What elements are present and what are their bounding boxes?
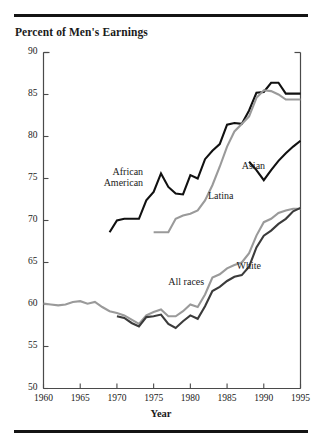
y-tick-label: 65 [16,256,38,266]
x-tick-label: 1965 [63,393,97,403]
series-label-all-races: All races [168,276,204,287]
bottom-rule [14,430,308,433]
series-label-line-1: African [91,166,143,177]
x-tick-label: 1975 [137,393,171,403]
x-tick-label: 1970 [100,393,134,403]
axis-ticks [44,53,301,389]
x-tick-label: 1960 [27,393,61,403]
y-tick-label: 55 [16,340,38,350]
y-tick-label: 85 [16,88,38,98]
series-label-white: White [237,260,261,271]
series-line-white [117,208,301,328]
x-tick-label: 1990 [247,393,281,403]
x-axis-title: Year [0,408,322,419]
series-label-latina: Latina [208,190,234,201]
x-tick-label: 1980 [173,393,207,403]
series-line-african-american [110,83,301,233]
y-tick-label: 70 [16,214,38,224]
y-tick-label: 80 [16,130,38,140]
data-series-layer [44,83,301,328]
figure-container: Percent of Men's Earnings 50556065707580… [0,0,322,447]
y-tick-label: 60 [16,298,38,308]
x-tick-label: 1995 [284,393,318,403]
axis-lines [44,53,301,389]
y-tick-label: 50 [16,382,38,392]
series-label-asian: Asian [242,160,265,171]
series-label-line-2: American [91,177,143,188]
y-tick-label: 75 [16,172,38,182]
chart-plot-area [0,0,322,447]
x-tick-label: 1985 [210,393,244,403]
y-tick-label: 90 [16,46,38,56]
series-label-african-american: AfricanAmerican [91,166,143,188]
